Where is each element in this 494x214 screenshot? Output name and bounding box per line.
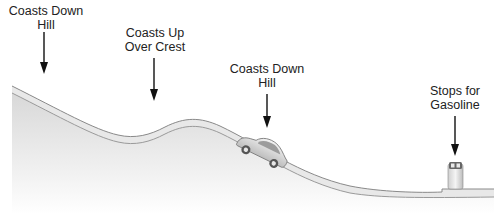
label-coasts-down-hill-2: Coasts Down Hill <box>230 62 304 90</box>
hill-road-diagram <box>0 0 494 214</box>
label-line: Over Crest <box>125 40 185 54</box>
label-line: Coasts Down <box>9 4 83 18</box>
label-line: Gasoline <box>430 98 480 112</box>
label-line: Hill <box>9 18 83 32</box>
arrow-down-icon <box>150 58 158 101</box>
label-coasts-down-hill-1: Coasts Down Hill <box>9 4 83 32</box>
arrow-down-icon <box>263 94 271 128</box>
gas-pump-icon <box>448 162 463 189</box>
arrow-down-icon <box>451 116 459 156</box>
label-line: Hill <box>230 76 304 90</box>
label-line: Coasts Down <box>230 62 304 76</box>
label-stops-for-gasoline: Stops for Gasoline <box>430 84 480 112</box>
label-line: Coasts Up <box>125 26 185 40</box>
label-coasts-up-over-crest: Coasts Up Over Crest <box>125 26 185 54</box>
label-line: Stops for <box>430 84 480 98</box>
arrow-down-icon <box>40 32 48 74</box>
